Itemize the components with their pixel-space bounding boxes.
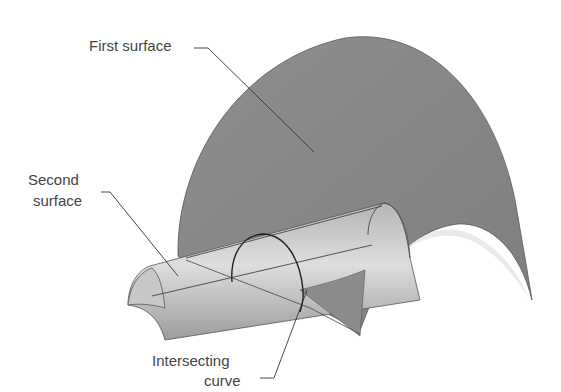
label-second-surface-line1: Second (28, 171, 79, 188)
label-intersecting-curve-line2: curve (204, 372, 241, 389)
label-second-surface-line2: surface (33, 192, 82, 209)
diagram-canvas (0, 0, 561, 392)
label-intersecting-curve-line1: Intersecting (152, 352, 230, 369)
label-first-surface: First surface (89, 37, 172, 54)
